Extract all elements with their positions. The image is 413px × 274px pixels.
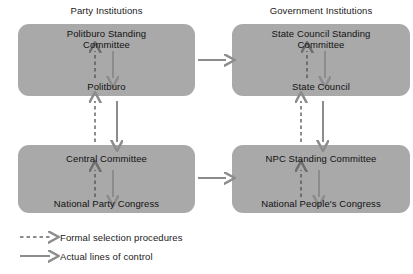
diagram-canvas: Party Institutions Government Institutio… bbox=[0, 0, 413, 274]
node-national-party-congress: National Party Congress bbox=[18, 198, 195, 209]
node-state-council: State Council bbox=[232, 81, 410, 92]
node-politburo-standing-committee-line1: Politburo Standing bbox=[18, 28, 195, 39]
node-state-council-standing-committee-line1: State Council Standing bbox=[232, 28, 410, 39]
node-state-council-standing-committee-line2: Committee bbox=[232, 39, 410, 50]
node-politburo: Politburo bbox=[18, 81, 195, 92]
node-politburo-standing-committee-line2: Committee bbox=[18, 39, 195, 50]
node-national-peoples-congress: National People's Congress bbox=[232, 198, 410, 209]
legend-label-actual-lines-of-control: Actual lines of control bbox=[60, 251, 153, 262]
node-npc-standing-committee: NPC Standing Committee bbox=[232, 153, 410, 164]
legend-label-formal-selection-procedures: Formal selection procedures bbox=[60, 232, 183, 243]
node-central-committee: Central Committee bbox=[18, 153, 195, 164]
